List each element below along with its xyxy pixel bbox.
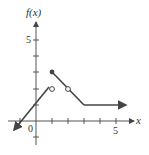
- function-graph: f(x) x 0 5 5: [0, 0, 149, 155]
- origin-label: 0: [28, 123, 33, 134]
- x-tick-5-label: 5: [113, 125, 118, 136]
- open-point: [50, 87, 55, 92]
- closed-point: [50, 70, 55, 75]
- x-axis-label: x: [135, 114, 141, 126]
- y-axis-label: f(x): [26, 6, 42, 19]
- y-tick-5-label: 5: [26, 34, 31, 45]
- open-point: [66, 87, 71, 92]
